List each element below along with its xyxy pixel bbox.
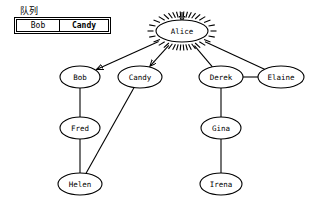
sunburst-ray (192, 13, 196, 18)
node-label-candy: Candy (129, 73, 152, 82)
graph-edge-alice-bob (97, 42, 159, 70)
diagram-canvas: 队列 Bob Candy AliceBobCandyDerekElaineFre… (0, 0, 312, 208)
node-label-helen: Helen (69, 180, 92, 189)
graph-node-fred[interactable]: Fred (60, 117, 100, 139)
sunburst-ray (204, 40, 210, 42)
sunburst-ray (189, 12, 192, 18)
sunburst-ray (199, 42, 205, 46)
sunburst-ray (173, 12, 176, 18)
sunburst-ray (199, 17, 205, 21)
sunburst-ray (209, 36, 215, 37)
sunburst-ray (168, 44, 172, 49)
sunburst-ray (183, 44, 184, 50)
graph-node-helen[interactable]: Helen (58, 173, 102, 195)
sunburst-ray (149, 25, 155, 26)
sunburst-ray (180, 44, 181, 50)
sunburst-ray (164, 14, 169, 19)
sunburst-ray (154, 40, 160, 42)
sunburst-ray (195, 14, 200, 19)
graph-node-candy[interactable]: Candy (118, 66, 162, 88)
sunburst-ray (149, 36, 155, 37)
sunburst-ray (183, 12, 184, 18)
sunburst-ray (186, 12, 188, 18)
graph-edge-alice-candy (150, 45, 169, 65)
node-label-fred: Fred (71, 124, 89, 133)
graph-node-derek[interactable]: Derek (199, 66, 243, 88)
graph-node-gina[interactable]: Gina (201, 117, 241, 139)
node-label-elaine: Elaine (267, 73, 295, 82)
sunburst-ray (186, 44, 188, 50)
sunburst-ray (173, 44, 176, 50)
sunburst-ray (209, 25, 215, 26)
sunburst-ray (180, 12, 181, 18)
graph-edge-alice-elaine (205, 42, 264, 70)
node-label-derek: Derek (210, 73, 233, 82)
sunburst-ray (204, 20, 210, 22)
graph-svg: AliceBobCandyDerekElaineFredGinaHelenIre… (0, 0, 312, 208)
graph-edge-alice-derek (194, 46, 212, 67)
sunburst-ray (189, 44, 192, 50)
graph-node-alice[interactable]: Alice (156, 20, 208, 42)
graph-node-irena[interactable]: Irena (200, 173, 242, 195)
sunburst-ray (177, 44, 179, 50)
sunburst-ray (159, 42, 165, 46)
node-label-gina: Gina (212, 124, 230, 133)
node-label-irena: Irena (210, 180, 233, 189)
sunburst-ray (159, 17, 165, 21)
sunburst-ray (177, 12, 179, 18)
sunburst-ray (168, 13, 172, 18)
node-label-bob: Bob (73, 73, 87, 82)
node-label-alice: Alice (171, 27, 194, 36)
sunburst-ray (154, 20, 160, 22)
graph-node-elaine[interactable]: Elaine (258, 66, 304, 88)
graph-node-bob[interactable]: Bob (60, 66, 100, 88)
